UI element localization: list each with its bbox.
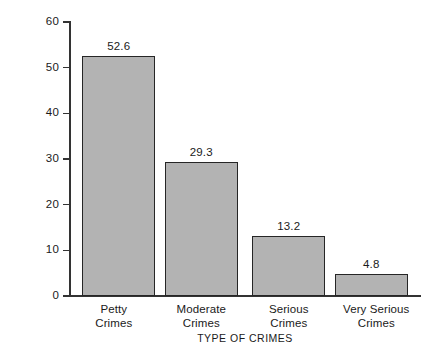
bar-value-label: 29.3 <box>165 147 238 159</box>
x-category-label-line2: Crimes <box>239 317 339 331</box>
x-category-label-line1: Serious <box>239 303 339 317</box>
y-tick-mark <box>63 113 70 114</box>
x-category-label: Very SeriousCrimes <box>327 303 427 330</box>
y-tick-label: 0 <box>0 290 59 302</box>
x-category-label-line2: Crimes <box>64 317 164 331</box>
x-category-label-line1: Moderate <box>152 303 252 317</box>
y-tick-label: 40 <box>0 107 59 119</box>
y-tick-label: 10 <box>0 244 59 256</box>
y-tick-mark <box>63 204 70 205</box>
y-tick-mark <box>63 158 70 159</box>
bar <box>335 274 408 296</box>
bar <box>165 162 238 296</box>
bar-chart: PERCENT OF NEW ADMISSIONS 6050403020100 … <box>0 0 434 349</box>
y-tick-mark <box>63 295 70 296</box>
bar-value-label: 13.2 <box>252 221 325 233</box>
y-tick-label: 60 <box>0 16 59 28</box>
y-tick-label: 20 <box>0 199 59 211</box>
bar-value-label: 4.8 <box>335 259 408 271</box>
y-tick-label: 50 <box>0 62 59 74</box>
bar-value-label: 52.6 <box>82 41 155 53</box>
x-category-label: ModerateCrimes <box>152 303 252 330</box>
x-category-label: PettyCrimes <box>64 303 164 330</box>
x-category-label-line1: Very Serious <box>327 303 427 317</box>
y-tick-mark <box>63 21 70 22</box>
x-axis-title: TYPE OF CRIMES <box>70 332 420 344</box>
bar <box>82 56 155 296</box>
bar <box>252 236 325 296</box>
y-tick-mark <box>63 250 70 251</box>
y-tick-label: 30 <box>0 153 59 165</box>
x-category-label-line2: Crimes <box>327 317 427 331</box>
y-tick-mark <box>63 67 70 68</box>
x-category-label: SeriousCrimes <box>239 303 339 330</box>
x-category-label-line2: Crimes <box>152 317 252 331</box>
x-category-label-line1: Petty <box>64 303 164 317</box>
